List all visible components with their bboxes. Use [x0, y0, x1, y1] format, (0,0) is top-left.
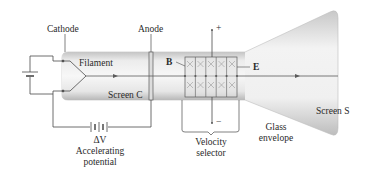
battery-icon: [91, 122, 107, 132]
label-accelerating: Accelerating: [70, 146, 130, 157]
velocity-selector-bracket: [182, 100, 239, 135]
label-velocity: Velocity: [186, 137, 236, 148]
label-cathode: Cathode: [47, 24, 79, 35]
label-screen-s: Screen S: [316, 106, 350, 117]
label-delta-v: ΔV: [92, 135, 108, 146]
label-selector: selector: [186, 148, 236, 159]
label-minus: −: [216, 117, 221, 128]
label-envelope: envelope: [251, 133, 301, 144]
label-potential: potential: [70, 157, 130, 168]
label-anode: Anode: [138, 24, 163, 35]
label-filament: Filament: [79, 58, 113, 69]
label-screen-c: Screen C: [108, 90, 143, 101]
label-plus: +: [216, 23, 221, 34]
label-b-field: B⃗: [166, 57, 180, 68]
label-e-field: E⃗: [253, 62, 267, 73]
label-glass: Glass: [251, 122, 301, 133]
